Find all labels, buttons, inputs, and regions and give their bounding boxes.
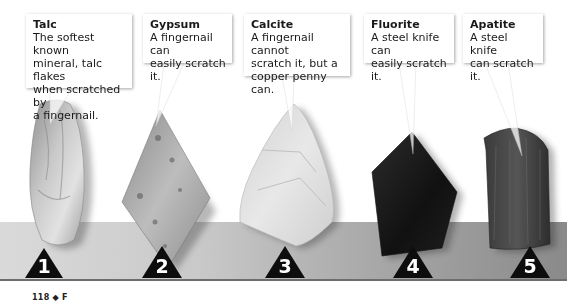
mineral-desc-fluorite-line2: easily scratch it. — [371, 57, 448, 83]
marker-5-number: 5 — [515, 255, 545, 277]
marker-2-number: 2 — [147, 255, 177, 277]
page-number: 118 — [32, 293, 50, 302]
callout-gypsum: Gypsum A fingernail can easily scratch i… — [143, 14, 232, 63]
mineral-desc-talc-line1: The softest known — [33, 31, 126, 57]
mineral-desc-calcite-line2: scratch it, but a — [251, 57, 344, 70]
marker-4-number: 4 — [398, 255, 428, 277]
mineral-name-fluorite: Fluorite — [371, 18, 448, 31]
mineral-name-apatite: Apatite — [470, 18, 537, 31]
callout-talc: Talc The softest known mineral, talc fla… — [26, 14, 132, 88]
callout-fluorite: Fluorite A steel knife can easily scratc… — [364, 14, 454, 63]
mineral-desc-apatite-line2: can scratch it. — [470, 57, 537, 83]
marker-3-number: 3 — [270, 255, 300, 277]
mineral-desc-talc-line4: a fingernail. — [33, 109, 126, 122]
mineral-desc-gypsum-line2: easily scratch it. — [150, 57, 226, 83]
callout-apatite: Apatite A steel knife can scratch it. — [463, 14, 543, 63]
callout-calcite: Calcite A fingernail cannot scratch it, … — [244, 14, 350, 76]
marker-1-number: 1 — [29, 255, 59, 277]
mineral-name-calcite: Calcite — [251, 18, 344, 31]
diamond-icon: ◆ — [53, 293, 59, 302]
mineral-name-talc: Talc — [33, 18, 126, 31]
mineral-name-gypsum: Gypsum — [150, 18, 226, 31]
mineral-desc-apatite-line1: A steel knife — [470, 31, 537, 57]
page-folio: 118◆F — [32, 293, 68, 302]
mineral-desc-calcite-line3: copper penny can. — [251, 70, 344, 96]
mineral-desc-talc-line2: mineral, talc flakes — [33, 57, 126, 83]
section-letter: F — [62, 293, 68, 302]
mineral-desc-talc-line3: when scratched by — [33, 83, 126, 109]
calcite-specimen — [240, 104, 334, 246]
mineral-desc-gypsum-line1: A fingernail can — [150, 31, 226, 57]
fluorite-specimen — [372, 132, 457, 256]
mineral-desc-calcite-line1: A fingernail cannot — [251, 31, 344, 57]
mineral-desc-fluorite-line1: A steel knife can — [371, 31, 448, 57]
mohs-hardness-figure: 1 2 3 4 5 Talc The softest known mineral… — [0, 0, 567, 302]
